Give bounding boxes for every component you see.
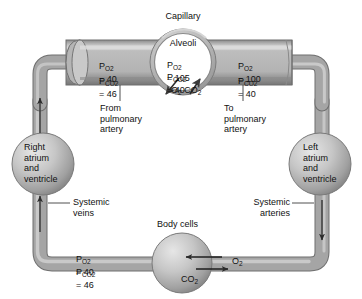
- capillary-in-pco2-value: = 46: [99, 89, 117, 99]
- systemic-pco2: PCO2 = 46: [66, 256, 95, 299]
- body-co2-label: CO2: [171, 263, 198, 298]
- capillary-title: Capillary: [140, 11, 226, 22]
- gas-exchange-diagram: Capillary Alveoli PO2 = 105 PCO2 = 40 O2…: [0, 0, 362, 299]
- alveolus-gas-pair: O2 CO2: [161, 74, 201, 109]
- body-cells-label: Body cells: [157, 219, 198, 230]
- right-heart-label: Right atrium and ventricle: [24, 142, 58, 184]
- to-pulmonary-artery-label: To pulmonary artery: [224, 103, 266, 135]
- systemic-arteries-label: Systemic arteries: [240, 197, 290, 218]
- alveoli-label: Alveoli: [154, 38, 212, 49]
- body-o2-label: O2: [222, 245, 243, 280]
- systemic-pco2-value: = 46: [76, 280, 94, 290]
- co2-label: CO2: [184, 85, 201, 95]
- from-pulmonary-artery-label: From pulmonary artery: [100, 103, 142, 135]
- capillary-out-pco2-value: = 40: [238, 89, 256, 99]
- systemic-veins-label: Systemic veins: [73, 197, 110, 218]
- left-heart-label: Left atrium and ventricle: [303, 142, 337, 184]
- o2-label: O2: [171, 85, 182, 95]
